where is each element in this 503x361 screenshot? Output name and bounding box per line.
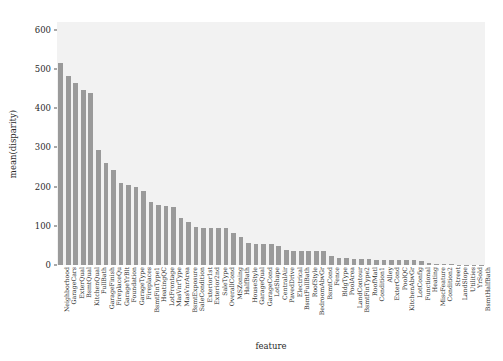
x-axis-tick: Electrical xyxy=(290,265,298,337)
bar-slot xyxy=(132,22,140,265)
bar-slot xyxy=(478,22,486,265)
x-axis-tick: FireplaceQu xyxy=(110,265,118,337)
x-axis-tick: OverallCond xyxy=(222,265,230,337)
x-axis-tick: MSZoning xyxy=(230,265,238,337)
bar xyxy=(246,243,251,265)
bar-slot xyxy=(147,22,155,265)
bar xyxy=(239,237,244,265)
bar-slot xyxy=(448,22,456,265)
bar xyxy=(231,233,236,265)
y-axis-tick-label: 600 xyxy=(35,25,51,35)
x-axis-tick: ExterQual xyxy=(72,265,80,337)
x-axis-tick: HouseStyle xyxy=(245,265,253,337)
y-axis: 0100200300400500600 xyxy=(0,22,57,265)
bar-slot xyxy=(455,22,463,265)
bar xyxy=(306,251,311,266)
x-axis-tick: MiscFeature xyxy=(433,265,441,337)
bar-slot xyxy=(335,22,343,265)
x-axis-tick: KitchenQual xyxy=(87,265,95,337)
bar-slot xyxy=(425,22,433,265)
bar xyxy=(314,251,319,265)
x-axis-tick: BsmtFullBath xyxy=(298,265,306,337)
x-axis-tick: RoofMatl xyxy=(365,265,373,337)
bar-slot xyxy=(140,22,148,265)
bar xyxy=(141,191,146,265)
bar xyxy=(284,250,289,265)
x-axis-tick: Street xyxy=(448,265,456,337)
bar-slot xyxy=(87,22,95,265)
x-axis-tick: MasVnrType xyxy=(170,265,178,337)
bar-slot xyxy=(298,22,306,265)
bar xyxy=(194,227,199,265)
bar xyxy=(96,150,101,265)
bar xyxy=(299,251,304,266)
bar-slot xyxy=(260,22,268,265)
x-axis-tick-label: BsmtHalfBath xyxy=(485,267,491,311)
bar-series xyxy=(57,22,485,265)
bar-slot xyxy=(245,22,253,265)
bar xyxy=(111,170,116,265)
bar xyxy=(66,76,71,265)
x-axis-tick: GarageQual xyxy=(252,265,260,337)
bar-slot xyxy=(418,22,426,265)
bar-slot xyxy=(365,22,373,265)
bar-slot xyxy=(395,22,403,265)
x-axis-tick: GarageCond xyxy=(260,265,268,337)
bar-slot xyxy=(95,22,103,265)
bar-slot xyxy=(328,22,336,265)
x-axis-tick: Fireplaces xyxy=(140,265,148,337)
bar-slot xyxy=(433,22,441,265)
bar-slot xyxy=(185,22,193,265)
bar-slot xyxy=(388,22,396,265)
bar xyxy=(321,251,326,265)
bar xyxy=(119,183,124,265)
y-axis-tick-label: 0 xyxy=(46,260,51,270)
bar-slot xyxy=(343,22,351,265)
bar-slot xyxy=(380,22,388,265)
bar xyxy=(164,206,169,265)
bar xyxy=(171,207,176,265)
bar xyxy=(329,256,334,265)
bar-slot xyxy=(252,22,260,265)
bar-slot xyxy=(222,22,230,265)
bar xyxy=(254,244,259,265)
y-axis-tick-label: 300 xyxy=(35,142,51,152)
x-axis-tick: Condition2 xyxy=(440,265,448,337)
bar-slot xyxy=(102,22,110,265)
bar-slot xyxy=(470,22,478,265)
bar-slot xyxy=(440,22,448,265)
x-axis-tick: LotFrontage xyxy=(162,265,170,337)
bar-slot xyxy=(463,22,471,265)
x-axis-tick: LandSlope xyxy=(455,265,463,337)
bar xyxy=(149,202,154,265)
bar-slot xyxy=(313,22,321,265)
x-axis-tick: RoofStyle xyxy=(305,265,313,337)
x-axis-tick: BsmtHalfBath xyxy=(478,265,486,337)
x-axis-tick: CentralAir xyxy=(275,265,283,337)
x-axis-tick: SaleCondition xyxy=(192,265,200,337)
bar xyxy=(337,258,342,265)
x-axis-tick: GarageCars xyxy=(65,265,73,337)
x-axis-tick: PoolQC xyxy=(395,265,403,337)
x-axis-tick: Fence xyxy=(328,265,336,337)
x-axis-tick: LotShape xyxy=(267,265,275,337)
bar-slot xyxy=(410,22,418,265)
x-axis-tick: Alley xyxy=(380,265,388,337)
bar-slot xyxy=(403,22,411,265)
bar xyxy=(344,258,349,265)
y-axis-tick-label: 500 xyxy=(35,64,51,74)
bar xyxy=(209,228,214,265)
x-axis-tick: PoolArea xyxy=(343,265,351,337)
bar-slot xyxy=(155,22,163,265)
x-axis-tick: BsmtCond xyxy=(320,265,328,337)
bar xyxy=(126,185,131,265)
x-axis-tick: GarageYrBlt xyxy=(117,265,125,337)
bar-slot xyxy=(57,22,65,265)
bar-slot xyxy=(110,22,118,265)
bar-slot xyxy=(282,22,290,265)
bar xyxy=(88,93,93,265)
x-axis-tick: BedroomAbvGr xyxy=(313,265,321,337)
plot-area xyxy=(57,22,485,265)
bar xyxy=(179,218,184,265)
x-axis-tick: Heating xyxy=(425,265,433,337)
